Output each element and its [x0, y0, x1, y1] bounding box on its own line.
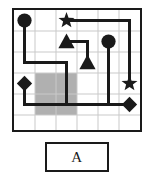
star-top [59, 12, 75, 27]
diamond-left [17, 76, 32, 91]
circle-top-left [17, 13, 31, 27]
label-box: A [45, 142, 109, 172]
shape-nodes-layer [14, 10, 140, 130]
diamond-bottom-right [122, 97, 137, 112]
board-inner [14, 10, 140, 130]
triangle-lower [79, 54, 95, 69]
label-text: A [71, 150, 82, 165]
puzzle-figure: A [0, 0, 155, 180]
star-right [122, 75, 138, 90]
puzzle-board [12, 8, 142, 132]
triangle-upper [58, 33, 74, 48]
circle-right [101, 34, 115, 48]
